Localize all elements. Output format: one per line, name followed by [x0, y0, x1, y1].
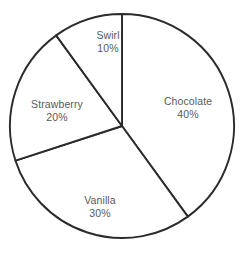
- pie-label-value: 20%: [31, 111, 83, 124]
- pie-label-name: Strawberry: [31, 98, 83, 111]
- pie-label-name: Swirl: [96, 29, 119, 42]
- pie-label-name: Vanilla: [84, 194, 115, 207]
- pie-label-value: 10%: [96, 42, 119, 55]
- pie-label-name: Chocolate: [164, 95, 212, 108]
- pie-label-swirl: Swirl10%: [96, 29, 119, 55]
- pie-chart: Chocolate40%Vanilla30%Strawberry20%Swirl…: [0, 0, 246, 255]
- pie-slices-group: [10, 14, 234, 238]
- pie-chart-svg: [0, 0, 246, 255]
- pie-label-value: 40%: [164, 108, 212, 121]
- pie-label-strawberry: Strawberry20%: [31, 98, 83, 124]
- pie-label-chocolate: Chocolate40%: [164, 95, 212, 121]
- pie-label-value: 30%: [84, 207, 115, 220]
- pie-label-vanilla: Vanilla30%: [84, 194, 115, 220]
